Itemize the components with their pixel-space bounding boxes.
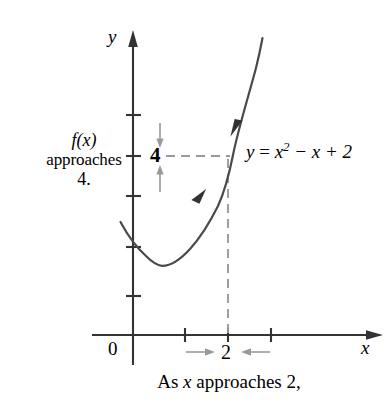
curve-approach-arrow-from-above xyxy=(230,119,242,138)
x-axis-value-label-2: 2 xyxy=(221,341,231,363)
origin-label: 0 xyxy=(108,338,118,359)
curve-equation-label: y = x2 − x + 2 xyxy=(246,140,352,163)
y-axis-value-label-4: 4 xyxy=(150,144,161,168)
y-axis-arrowhead xyxy=(128,30,138,47)
caption-variable: x xyxy=(183,371,191,392)
figure-caption: As x approaches 2, xyxy=(104,371,354,392)
fx-approaches-line-3: 4. xyxy=(32,169,136,189)
guide-lines-group xyxy=(166,156,230,333)
caption-suffix: approaches 2, xyxy=(192,371,301,392)
equation-equals: = xyxy=(254,141,274,162)
graph-canvas xyxy=(0,0,392,412)
x-approach-arrow-from-right-head xyxy=(241,348,251,356)
equation-term-x: x xyxy=(275,141,283,162)
equation-remainder: − x + 2 xyxy=(290,141,353,162)
fx-approaches-line-2: approaches xyxy=(32,150,136,169)
caption-prefix: As xyxy=(157,371,183,392)
x-axis-label: x xyxy=(361,337,369,358)
x-approach-arrow-from-left-head xyxy=(205,348,215,356)
curve-approach-arrow-from-below xyxy=(191,187,206,204)
y-axis-label: y xyxy=(108,26,116,47)
limit-figure: y x 0 f(x) approaches 4. 4 2 y = x2 − x … xyxy=(0,0,392,412)
parabola-curve xyxy=(121,38,263,266)
axes-group xyxy=(92,30,383,365)
fx-approaches-line-1: f(x) xyxy=(32,130,136,150)
fx-approaches-annotation: f(x) approaches 4. xyxy=(32,130,136,189)
